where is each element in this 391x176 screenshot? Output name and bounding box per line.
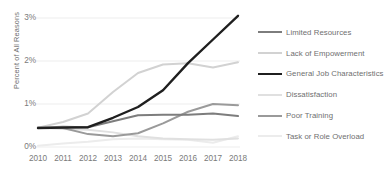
x-tick-label: 2015 xyxy=(150,155,176,163)
legend-swatch-icon xyxy=(258,52,282,54)
line-chart: 0%1%2%3% Percent of All Reasons 20102011… xyxy=(0,0,391,176)
x-axis-ticks: 201020112012201320142015201620172018 xyxy=(0,155,391,171)
x-tick-label: 2011 xyxy=(50,155,76,163)
x-tick-label: 2018 xyxy=(225,155,251,163)
legend-swatch-icon xyxy=(258,115,282,117)
y-axis-title: Percent of All Reasons xyxy=(12,0,21,103)
legend-swatch-icon xyxy=(258,31,282,33)
legend-item[interactable]: Lack of Empowerment xyxy=(258,43,391,64)
legend-label: General Job Characteristics xyxy=(286,69,384,78)
x-tick-label: 2017 xyxy=(200,155,226,163)
legend-swatch-icon xyxy=(258,94,282,96)
legend-label: Limited Resources xyxy=(286,28,351,37)
legend-label: Lack of Empowerment xyxy=(286,49,365,58)
x-tick-label: 2013 xyxy=(100,155,126,163)
legend-item[interactable]: Dissatisfaction xyxy=(258,84,391,105)
legend-swatch-icon xyxy=(258,73,282,75)
legend-item[interactable]: General Job Characteristics xyxy=(258,64,391,85)
legend-label: Poor Training xyxy=(286,111,333,120)
x-tick-label: 2010 xyxy=(25,155,51,163)
legend: Limited ResourcesLack of EmpowermentGene… xyxy=(258,22,391,147)
legend-item[interactable]: Poor Training xyxy=(258,105,391,126)
legend-label: Task or Role Overload xyxy=(286,132,364,141)
series-line xyxy=(38,136,238,145)
legend-item[interactable]: Task or Role Overload xyxy=(258,126,391,147)
series-line xyxy=(38,16,238,128)
y-tick-label: 0% xyxy=(14,143,36,151)
series-line xyxy=(38,62,238,127)
x-tick-label: 2016 xyxy=(175,155,201,163)
legend-swatch-icon xyxy=(258,135,282,137)
legend-item[interactable]: Limited Resources xyxy=(258,22,391,43)
x-tick-label: 2012 xyxy=(75,155,101,163)
legend-label: Dissatisfaction xyxy=(286,90,337,99)
x-tick-label: 2014 xyxy=(125,155,151,163)
